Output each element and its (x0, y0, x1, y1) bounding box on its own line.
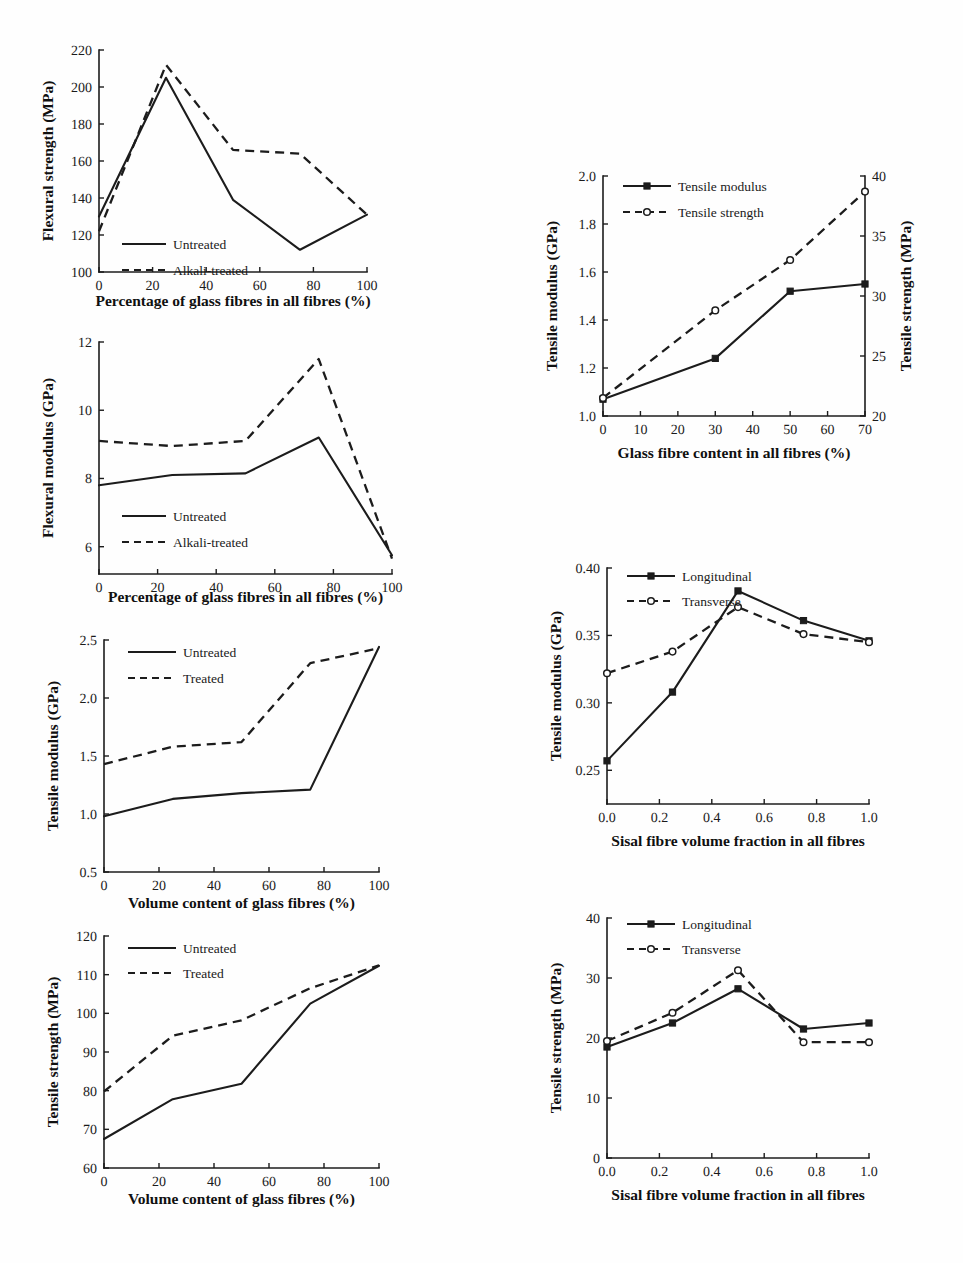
y-tick-label: 100 (71, 266, 92, 281)
x-tick-label: 20 (671, 423, 685, 438)
x-tick-label: 100 (382, 581, 403, 596)
y-tick-label: 12 (78, 336, 92, 351)
data-point-marker (800, 1039, 807, 1046)
legend: UntreatedAlkali-treated (122, 509, 248, 550)
x-tick-label: 40 (207, 1175, 221, 1190)
data-point-marker (862, 188, 869, 195)
y-axis-title: Tensile modulus (GPa) (44, 681, 62, 831)
x-tick-label: 0.2 (651, 811, 669, 826)
y-tick-label: 0 (593, 1152, 600, 1167)
y-tick-label: 0.25 (576, 764, 601, 779)
data-point-marker (800, 617, 806, 623)
y-tick-label: 0.5 (80, 866, 98, 881)
legend-label: Untreated (173, 509, 226, 524)
chart-panel-flexural-modulus-glass-percentage: 020406080100681012UntreatedAlkali-treate… (4, 330, 434, 620)
y-tick-label: 2.5 (80, 634, 98, 649)
x-tick-label: 40 (207, 879, 221, 894)
y2-ticks-group: 2025303540 (860, 170, 886, 425)
y-tick-label: 90 (83, 1046, 97, 1061)
x-tick-label: 10 (633, 423, 647, 438)
x-tick-label: 60 (262, 879, 276, 894)
series-line-treated (104, 965, 379, 1091)
data-point-marker (787, 288, 793, 294)
y-tick-label: 200 (71, 81, 92, 96)
x-axis-title: Percentage of glass fibres in all fibres… (108, 588, 383, 606)
x-tick-label: 20 (152, 879, 166, 894)
y-tick-label: 1.0 (579, 410, 597, 425)
chart-panel-tensile-modulus-sisal-fraction: 0.00.20.40.60.81.00.250.300.350.40Longit… (495, 548, 955, 868)
data-point-marker (600, 395, 607, 402)
y-tick-label: 1.4 (579, 314, 597, 329)
y2-tick-label: 35 (872, 230, 886, 245)
y2-tick-label: 20 (872, 410, 886, 425)
x-tick-label: 0.6 (755, 1165, 773, 1180)
data-point-marker (604, 758, 610, 764)
series-line-transverse (607, 970, 869, 1042)
x-tick-label: 30 (708, 423, 722, 438)
y-tick-label: 1.0 (80, 808, 98, 823)
y-axis-title: Flexural strength (MPa) (39, 81, 57, 242)
y2-tick-label: 30 (872, 290, 886, 305)
y-tick-label: 2.0 (80, 692, 98, 707)
y-tick-label: 6 (85, 541, 92, 556)
y-tick-label: 70 (83, 1123, 97, 1138)
x-tick-label: 0.8 (808, 1165, 826, 1180)
y-tick-label: 0.40 (576, 562, 601, 577)
x-ticks-group: 0.00.20.40.60.81.0 (598, 1153, 878, 1180)
y-tick-label: 10 (78, 404, 92, 419)
legend-label: Transverse (682, 942, 741, 957)
y-tick-label: 1.5 (80, 750, 98, 765)
y-tick-label: 8 (85, 472, 92, 487)
y-axis-title: Flexural modulus (GPa) (39, 378, 57, 538)
data-point-marker (669, 1010, 676, 1017)
x-tick-label: 0.4 (703, 1165, 721, 1180)
series-line-longitudinal (607, 591, 869, 761)
x-axis-title: Sisal fibre volume fraction in all fibre… (611, 1186, 864, 1203)
x-tick-label: 20 (152, 1175, 166, 1190)
y-tick-label: 0.30 (576, 697, 601, 712)
chart-panel-tensile-modulus-strength-glass-content: 0102030405060701.01.21.41.61.82.02025303… (495, 158, 955, 478)
legend-label: Alkali-treated (173, 263, 248, 278)
y-tick-label: 10 (586, 1092, 600, 1107)
series-line-transverse (607, 607, 869, 673)
legend-label: Transverse (682, 594, 741, 609)
y-axis-title: Tensile strength (MPa) (44, 977, 62, 1128)
y-tick-label: 180 (71, 118, 92, 133)
chart-canvas-tensile-strength-sisal-fraction: 0.00.20.40.60.81.0010203040LongitudinalT… (495, 898, 955, 1228)
chart-canvas-flexural-strength-glass-percentage: 020406080100100120140160180200220Untreat… (4, 28, 434, 328)
x-tick-label: 80 (317, 1175, 331, 1190)
y2-tick-label: 40 (872, 170, 886, 185)
x-ticks-group: 010203040506070 (600, 411, 873, 438)
y-axis-title: Tensile modulus (GPa) (547, 611, 565, 761)
y-tick-label: 160 (71, 155, 92, 170)
y-tick-label: 0.35 (576, 629, 601, 644)
data-point-marker (604, 1038, 611, 1045)
x-axis-title: Sisal fibre volume fraction in all fibre… (611, 832, 864, 849)
y-tick-label: 2.0 (579, 170, 597, 185)
y-tick-label: 120 (71, 229, 92, 244)
x-axis-title: Percentage of glass fibres in all fibres… (95, 292, 370, 310)
data-point-marker (735, 986, 741, 992)
chart-panel-flexural-strength-glass-percentage: 020406080100100120140160180200220Untreat… (4, 28, 434, 328)
legend-marker (648, 946, 655, 953)
legend-marker (644, 209, 651, 216)
data-point-marker (735, 967, 742, 974)
data-point-marker (669, 1020, 675, 1026)
y-tick-label: 140 (71, 192, 92, 207)
series-line-untreated (99, 78, 367, 250)
legend-label: Treated (183, 671, 224, 686)
x-tick-label: 0.2 (651, 1165, 669, 1180)
data-point-marker (866, 1020, 872, 1026)
x-ticks-group: 020406080100 (101, 1163, 390, 1190)
legend-marker (648, 573, 654, 579)
y2-axis-title: Tensile strength (MPa) (897, 221, 915, 372)
y-axis-title: Tensile strength (MPa) (547, 963, 565, 1114)
y-tick-label: 1.8 (579, 218, 597, 233)
x-ticks-group: 0.00.20.40.60.81.0 (598, 799, 878, 826)
y-tick-label: 110 (77, 969, 97, 984)
series-markers-longitudinal (604, 986, 872, 1050)
legend: UntreatedTreated (128, 941, 236, 981)
y-ticks-group: 681012 (78, 336, 104, 556)
legend-label: Longitudinal (682, 917, 752, 932)
series-line-longitudinal (607, 989, 869, 1047)
